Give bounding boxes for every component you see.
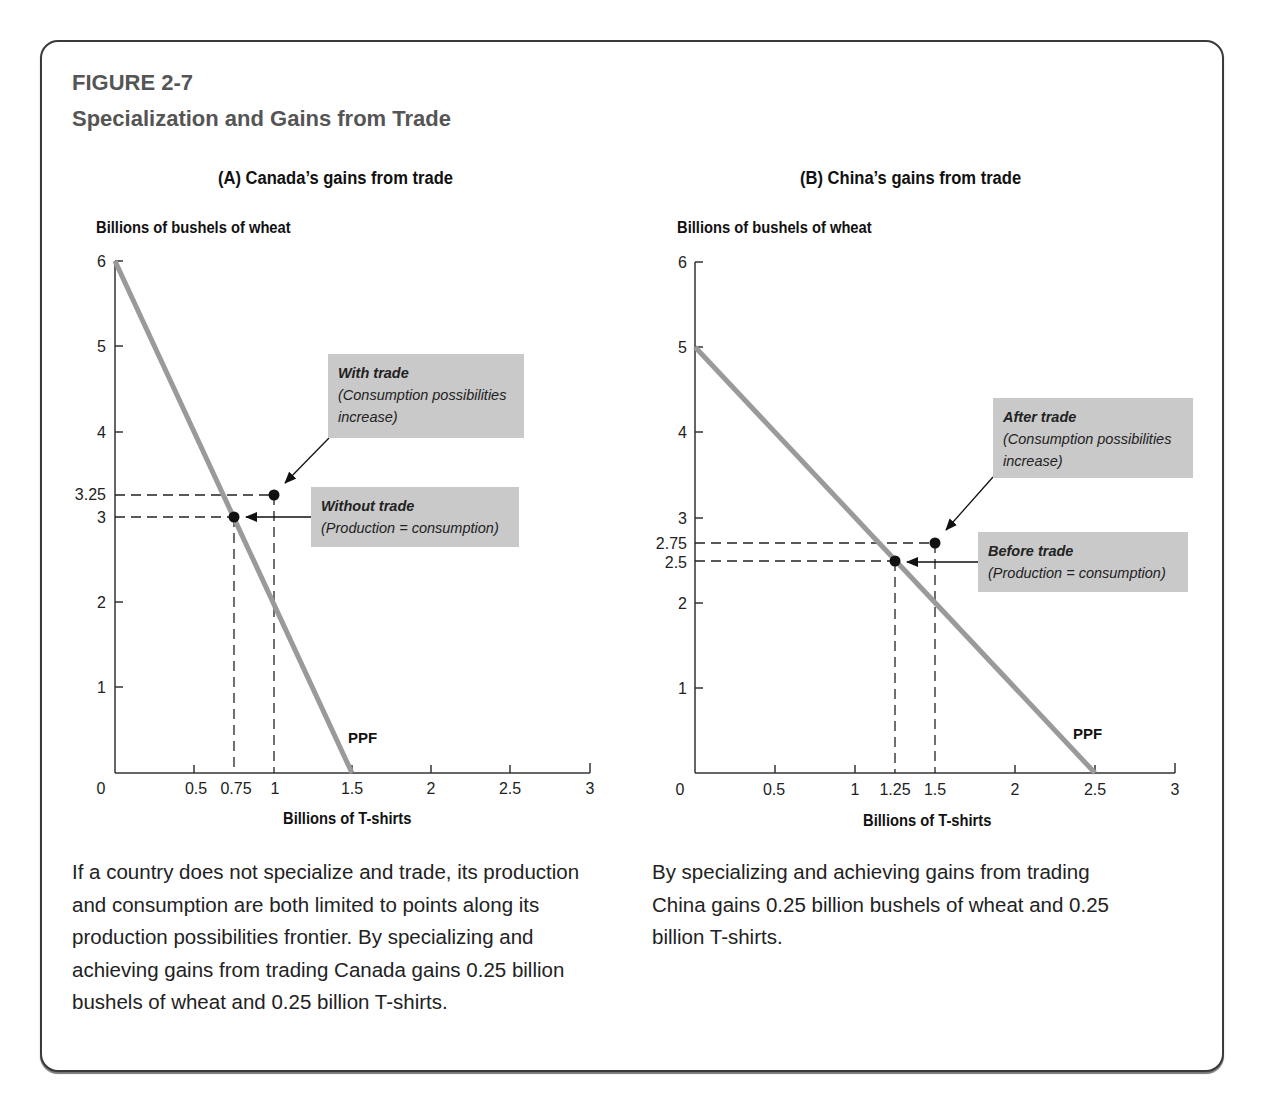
panel-b-point-before-trade [890, 556, 901, 567]
svg-text:4: 4 [678, 424, 687, 441]
svg-text:0.75: 0.75 [220, 780, 251, 797]
panel-a-point-without-trade [229, 512, 240, 523]
svg-text:2: 2 [427, 780, 436, 797]
svg-text:6: 6 [678, 254, 687, 271]
svg-text:4: 4 [97, 424, 106, 441]
svg-text:3: 3 [1171, 781, 1180, 798]
svg-text:2.5: 2.5 [1084, 781, 1106, 798]
panel-a-callout-without-trade: Without trade (Production = consumption) [311, 487, 519, 547]
panel-a-ppf-label: PPF [348, 729, 377, 746]
svg-text:2: 2 [678, 595, 687, 612]
panel-b-chart: 6 5 4 3 2.75 2.5 2 1 0 0.5 1 1.25 1.5 2 … [656, 254, 1180, 798]
svg-text:1.5: 1.5 [924, 781, 946, 798]
panel-b-callout-after-trade: After trade (Consumption possibilities i… [993, 398, 1193, 478]
svg-text:6: 6 [97, 253, 106, 270]
svg-text:2.5: 2.5 [499, 780, 521, 797]
svg-text:0.5: 0.5 [763, 781, 785, 798]
svg-text:0.5: 0.5 [185, 780, 207, 797]
svg-text:0: 0 [676, 781, 685, 798]
svg-text:2: 2 [1011, 781, 1020, 798]
panel-a-caption: If a country does not specialize and tra… [72, 856, 612, 1019]
svg-text:3: 3 [97, 509, 106, 526]
svg-text:1: 1 [97, 679, 106, 696]
svg-text:3: 3 [586, 780, 595, 797]
panel-b-callout-before-trade: Before trade (Production = consumption) [978, 532, 1188, 592]
svg-text:3.25: 3.25 [75, 486, 106, 503]
svg-text:1: 1 [271, 780, 280, 797]
panel-a-point-with-trade [269, 490, 280, 501]
svg-text:2.75: 2.75 [656, 535, 687, 552]
panel-a-callout-with-trade: With trade (Consumption possibilities in… [328, 354, 524, 438]
svg-text:5: 5 [678, 339, 687, 356]
svg-text:1: 1 [678, 680, 687, 697]
svg-text:1: 1 [851, 781, 860, 798]
svg-text:2: 2 [97, 594, 106, 611]
svg-text:1.5: 1.5 [341, 780, 363, 797]
svg-text:1.25: 1.25 [879, 781, 910, 798]
svg-text:3: 3 [678, 510, 687, 527]
panel-b-caption: By specializing and achieving gains from… [652, 856, 1142, 954]
panel-b-point-after-trade [930, 538, 941, 549]
svg-text:5: 5 [97, 338, 106, 355]
svg-text:2.5: 2.5 [665, 554, 687, 571]
panel-b-ppf-label: PPF [1073, 725, 1102, 742]
svg-text:0: 0 [97, 780, 106, 797]
